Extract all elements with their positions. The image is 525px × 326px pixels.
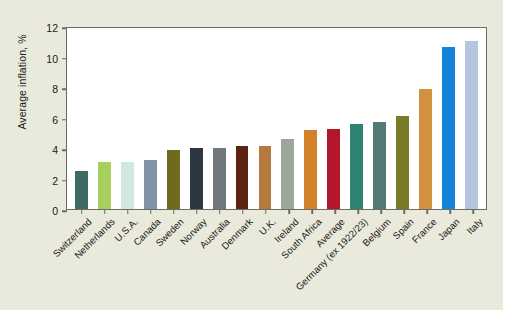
bar-slot [460,28,483,209]
x-tick-mark [450,209,452,214]
bar[interactable] [259,146,272,209]
x-tick-mark [104,209,106,214]
bar-slot [345,28,368,209]
bar[interactable] [304,130,317,209]
bar-slot [368,28,391,209]
y-tick-label: 2 [23,175,67,187]
inflation-bar-chart-figure: Average inflation, % 024681012 Switzerla… [0,0,525,326]
bar-slot [391,28,414,209]
x-tick-mark [81,209,83,214]
plot-area: 024681012 [66,27,487,210]
bar[interactable] [419,89,432,209]
x-tick-mark [219,209,221,214]
x-tick-label: Japan [436,216,462,242]
x-tick-mark [404,209,406,214]
bar-slot [299,28,322,209]
bar[interactable] [327,129,340,209]
bar-slot [414,28,437,209]
bar-slot [231,28,254,209]
bar[interactable] [281,139,294,209]
x-tick-mark [173,209,175,214]
bar[interactable] [144,160,157,209]
x-tick-mark [288,209,290,214]
x-tick-mark [357,209,359,214]
bar[interactable] [75,171,88,209]
x-axis-labels: SwitzerlandNetherlandsU.S.A.CanadaSweden… [66,216,487,316]
bar-slot [254,28,277,209]
y-tick-label: 8 [23,83,67,95]
x-tick-mark [427,209,429,214]
bar-slot [208,28,231,209]
y-tick-label: 6 [23,114,67,126]
bar-slot [322,28,345,209]
x-tick-mark [265,209,267,214]
bar-slot [70,28,93,209]
bar[interactable] [350,124,363,209]
bar[interactable] [373,122,386,209]
bar[interactable] [442,47,455,209]
y-tick-label: 12 [23,22,67,34]
bar-slot [437,28,460,209]
x-tick-mark [381,209,383,214]
bar-series [67,28,486,209]
bar[interactable] [465,41,478,209]
x-tick-mark [242,209,244,214]
x-tick-label: France [410,216,439,245]
bar-slot [162,28,185,209]
y-tick-label: 4 [23,144,67,156]
bar-slot [116,28,139,209]
x-tick-mark [334,209,336,214]
y-tick-mark [62,210,67,212]
x-tick-mark [150,209,152,214]
bar[interactable] [121,162,134,209]
bar[interactable] [396,116,409,209]
bar-slot [185,28,208,209]
x-tick-label: Italy [465,216,485,236]
x-tick-mark [196,209,198,214]
bar[interactable] [98,162,111,209]
bar[interactable] [167,150,180,209]
bar-slot [139,28,162,209]
x-tick-mark [127,209,129,214]
bar[interactable] [213,148,226,209]
bar[interactable] [190,148,203,209]
bar[interactable] [236,146,249,209]
x-tick-mark [311,209,313,214]
y-tick-label: 0 [23,205,67,217]
x-tick-mark [473,209,475,214]
bar-slot [276,28,299,209]
bar-slot [93,28,116,209]
y-tick-label: 10 [23,53,67,65]
